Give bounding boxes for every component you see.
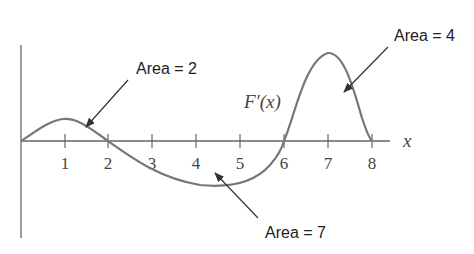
graph-canvas: 1 2 3 4 5 6 7 8 x F′(x) Area = 2 Area = … (0, 0, 474, 254)
arrow-area-1 (86, 80, 128, 127)
tick-label-4: 4 (192, 154, 201, 173)
tick-label-2: 2 (104, 154, 113, 173)
curve-label: F′(x) (243, 91, 281, 113)
x-axis-label: x (402, 130, 412, 151)
tick-label-6: 6 (280, 154, 289, 173)
tick-label-1: 1 (61, 154, 70, 173)
x-tick-labels: 1 2 3 4 5 6 7 8 (61, 154, 377, 173)
area-label-3: Area = 4 (394, 27, 455, 44)
tick-label-8: 8 (368, 154, 377, 173)
tick-label-5: 5 (236, 154, 245, 173)
tick-label-7: 7 (324, 154, 333, 173)
area-label-2: Area = 7 (265, 224, 326, 241)
area-label-1: Area = 2 (136, 60, 197, 77)
arrow-area-3 (344, 47, 388, 92)
